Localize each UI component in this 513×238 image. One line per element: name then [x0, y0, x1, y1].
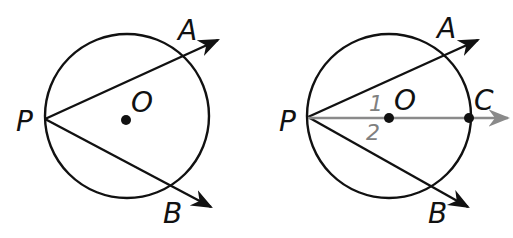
point-o	[121, 115, 131, 125]
label-o: O	[131, 86, 153, 119]
figure-right: P A B O C 1 2	[279, 12, 508, 230]
label-c: C	[474, 84, 494, 117]
point-o	[384, 113, 394, 123]
label-o: O	[394, 84, 416, 117]
label-angle-1: 1	[369, 91, 383, 116]
label-a: A	[176, 14, 197, 47]
label-a: A	[435, 12, 456, 45]
diagram-canvas: P A B O P A B O C 1 2	[0, 0, 513, 238]
ray-pa	[308, 40, 478, 117]
figure-left: P A B O	[16, 14, 218, 230]
label-b: B	[428, 197, 447, 230]
label-b: B	[163, 197, 182, 230]
point-c	[464, 113, 474, 123]
label-angle-2: 2	[366, 120, 380, 145]
label-p: P	[16, 105, 33, 138]
ray-pb	[45, 119, 211, 207]
ray-pb	[308, 117, 468, 207]
label-p: P	[279, 105, 296, 138]
